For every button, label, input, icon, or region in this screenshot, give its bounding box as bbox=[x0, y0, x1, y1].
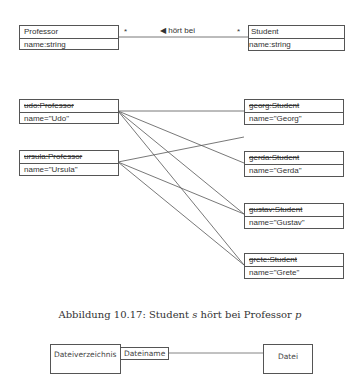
object-udo-name: udo:Professor bbox=[24, 101, 74, 110]
object-grete-name: grete:Student bbox=[249, 255, 297, 264]
object-georg: georg:Student name="Georg" bbox=[244, 99, 344, 125]
object-ursula: ursula:Professor name="Ursula" bbox=[19, 150, 119, 176]
object-gerda: gerda:Student name="Gerda" bbox=[244, 151, 344, 177]
multiplicity-left: * bbox=[124, 27, 127, 36]
object-gustav-attribute: name="Gustav" bbox=[245, 217, 343, 229]
association-label: ◀ hört bei bbox=[160, 26, 195, 35]
student-class-name: Student bbox=[249, 26, 344, 39]
object-gustav: gustav:Student name="Gustav" bbox=[244, 203, 344, 229]
student-class: Student name:string bbox=[248, 25, 345, 51]
dateiname-qualifier: Dateiname bbox=[120, 347, 169, 360]
professor-class-attribute: name:string bbox=[20, 39, 118, 51]
object-gerda-name: gerda:Student bbox=[249, 153, 299, 162]
professor-class-name: Professor bbox=[20, 26, 118, 39]
datei-class: Datei bbox=[263, 344, 313, 374]
object-ursula-name: ursula:Professor bbox=[24, 152, 82, 161]
multiplicity-right: * bbox=[237, 27, 240, 36]
student-class-attribute: name:string bbox=[249, 39, 344, 51]
object-georg-attribute: name="Georg" bbox=[245, 113, 343, 125]
object-ursula-attribute: name="Ursula" bbox=[20, 164, 118, 176]
object-udo-attribute: name="Udo" bbox=[20, 113, 118, 125]
dateiverzeichnis-class: Dateiverzeichnis bbox=[50, 344, 121, 374]
object-grete: grete:Student name="Grete" bbox=[244, 253, 344, 279]
object-grete-attribute: name="Grete" bbox=[245, 267, 343, 279]
object-udo: udo:Professor name="Udo" bbox=[19, 99, 119, 124]
object-gerda-attribute: name="Gerda" bbox=[245, 165, 343, 177]
object-gustav-name: gustav:Student bbox=[249, 205, 302, 214]
professor-class: Professor name:string bbox=[19, 25, 119, 50]
object-georg-name: georg:Student bbox=[249, 101, 299, 110]
figure-caption: Abbildung 10.17: Student s hört bei Prof… bbox=[0, 309, 360, 320]
